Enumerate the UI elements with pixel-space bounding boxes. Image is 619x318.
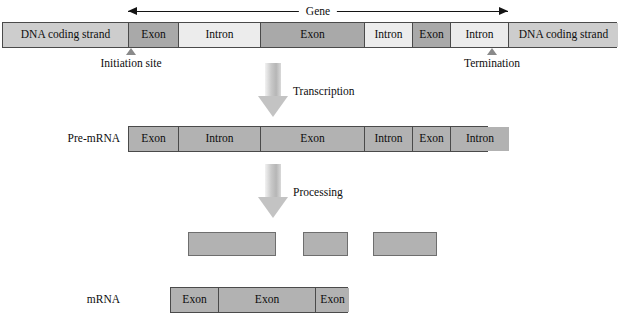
pre-mrna-row: ExonIntronExonIntronExonIntron (128, 126, 488, 152)
gene-span-right-arrowhead (499, 7, 508, 15)
processing-label: Processing (293, 186, 343, 198)
dna-strand-segment-intron-6: Intron (451, 23, 509, 47)
spliced-block-3 (373, 232, 437, 256)
pre-mrna-row-label: Pre-mRNA (28, 132, 120, 144)
transcription-label: Transcription (293, 85, 355, 97)
pre-mrna-segment-intron-3: Intron (365, 127, 413, 151)
dna-strand-segment-dna-coding-strand-7: DNA coding strand (509, 23, 618, 47)
spliced-block-1 (188, 232, 276, 256)
gene-label: Gene (299, 1, 337, 21)
termination-site-label: Termination (464, 57, 520, 69)
processing-arrow-shaft (265, 164, 281, 198)
pre-mrna-segment-intron-1: Intron (179, 127, 261, 151)
transcription-arrow-shaft (265, 63, 281, 97)
gene-span-arrow: Gene (128, 2, 508, 20)
mrna-row-label: mRNA (28, 293, 120, 305)
transcription-down-arrow-icon (258, 63, 288, 117)
termination-site: Termination (432, 48, 552, 69)
spliced-block-2 (303, 232, 348, 256)
processing-down-arrow-icon (258, 164, 288, 218)
mrna-segment-exon-1: Exon (219, 288, 316, 312)
dna-strand-segment-dna-coding-strand-0: DNA coding strand (3, 23, 129, 47)
pre-mrna-segment-exon-2: Exon (261, 127, 365, 151)
dna-strand-segment-intron-2: Intron (179, 23, 261, 47)
transcription-arrow-head (258, 96, 288, 117)
mrna-row: ExonExonExon (170, 287, 348, 313)
mrna-segment-exon-0: Exon (171, 288, 219, 312)
termination-site-marker-icon (487, 48, 497, 55)
pre-mrna-segment-intron-5: Intron (451, 127, 509, 151)
diagram-canvas: Gene DNA coding strandExonIntronExonIntr… (0, 0, 619, 318)
initiation-site: Initiation site (71, 48, 191, 69)
initiation-site-marker-icon (126, 48, 136, 55)
dna-strand-segment-exon-5: Exon (413, 23, 451, 47)
pre-mrna-segment-exon-4: Exon (413, 127, 451, 151)
dna-strand-segment-exon-3: Exon (261, 23, 365, 47)
dna-coding-strand-row: DNA coding strandExonIntronExonIntronExo… (2, 22, 617, 48)
pre-mrna-segment-exon-0: Exon (129, 127, 179, 151)
initiation-site-label: Initiation site (100, 57, 161, 69)
mrna-segment-exon-2: Exon (316, 288, 349, 312)
dna-strand-segment-exon-1: Exon (129, 23, 179, 47)
processing-arrow-head (258, 197, 288, 218)
dna-strand-segment-intron-4: Intron (365, 23, 413, 47)
